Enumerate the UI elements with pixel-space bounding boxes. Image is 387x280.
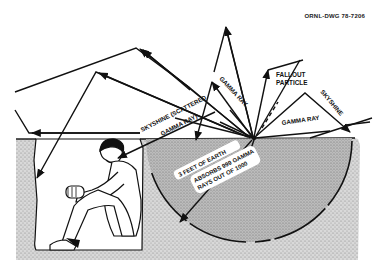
label-gamma-ray-right: GAMMA RAY <box>281 114 321 126</box>
label-skyshine-right: SKYSHINE <box>319 88 345 117</box>
label-particle: PARTICLE <box>276 79 308 86</box>
label-gamma-ray-upper: GAMMA RAY <box>218 75 250 108</box>
fallout-particle-dot <box>252 136 256 140</box>
label-fallout: FALLOUT <box>276 71 306 78</box>
fallout-shelter-diagram: SKYSHINE (SCATTERED GAMMA RAY) GAMMA RAY… <box>0 0 387 280</box>
